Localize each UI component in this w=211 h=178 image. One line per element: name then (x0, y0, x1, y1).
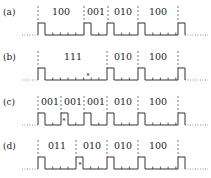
error-marker: * (78, 161, 82, 169)
pulse-code-diagram: (a)100001010100(b)111010100*(c)001001001… (0, 0, 211, 178)
error-marker: * (86, 72, 90, 80)
panel-label: (a) (3, 7, 15, 17)
panel-label: (b) (3, 52, 16, 62)
code-word: 100 (52, 6, 70, 17)
code-word: 100 (149, 140, 167, 151)
code-word: 010 (114, 96, 132, 107)
pulse-waveform (38, 113, 185, 125)
code-word: 010 (114, 140, 132, 151)
code-word: 100 (149, 6, 167, 17)
panel-label: (c) (3, 97, 15, 107)
code-word: 001 (64, 96, 82, 107)
code-word: 011 (48, 140, 66, 151)
panel-label: (d) (3, 141, 16, 151)
code-word: 010 (114, 6, 132, 17)
code-word: 001 (87, 6, 105, 17)
code-word: 111 (64, 51, 82, 62)
code-word: 001 (41, 96, 59, 107)
code-word: 010 (83, 140, 101, 151)
code-word: 001 (87, 96, 105, 107)
code-word: 010 (114, 51, 132, 62)
code-word: 100 (149, 51, 167, 62)
code-word: 100 (149, 96, 167, 107)
error-marker: * (62, 117, 66, 125)
